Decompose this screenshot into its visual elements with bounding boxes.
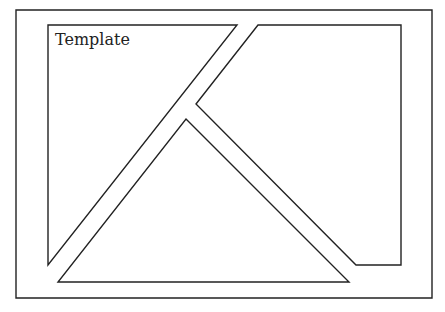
right-panel <box>196 25 401 265</box>
template-label: Template <box>55 31 130 49</box>
outer-frame <box>16 10 432 298</box>
bottom-triangle <box>58 119 349 282</box>
left-panel <box>48 25 237 265</box>
